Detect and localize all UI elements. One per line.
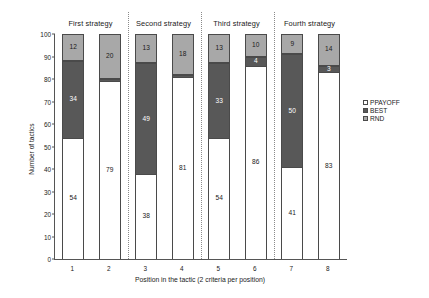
bar-segment-value: 33 xyxy=(216,98,223,105)
bar-segment-best: 49 xyxy=(135,63,157,173)
bar-segment-ppayoff: 54 xyxy=(208,138,230,260)
bar-segment-value: 54 xyxy=(70,195,77,202)
x-tick-4: 4 xyxy=(164,260,201,274)
bar-segment-rnd: 20 xyxy=(99,34,121,79)
bar-segment-ppayoff: 81 xyxy=(172,77,194,259)
x-tick-2: 2 xyxy=(91,260,128,274)
bar-segment-best: 4 xyxy=(245,57,267,66)
legend-label-best: BEST xyxy=(370,107,387,114)
legend-label-rnd: RND xyxy=(370,115,384,122)
stacked-bar[interactable]: 14383 xyxy=(318,34,340,259)
legend: PPAYOFF BEST RND xyxy=(363,99,400,122)
y-tick-60: 60 xyxy=(44,121,55,128)
bar-slot: 10486 xyxy=(238,34,275,259)
bar-segment-rnd: 13 xyxy=(135,34,157,63)
bars-layer: 1234542079134938188113335410486950411438… xyxy=(55,34,347,259)
stacked-bar[interactable]: 10486 xyxy=(245,34,267,259)
bar-segment-value: 83 xyxy=(325,163,332,170)
bar-segment-best: 3 xyxy=(318,66,340,73)
bar-segment-best: 50 xyxy=(281,54,303,167)
bar-slot: 2079 xyxy=(92,34,129,259)
bar-segment-best: 33 xyxy=(208,63,230,137)
bar-slot: 1881 xyxy=(165,34,202,259)
x-axis-ticks: 12345678 xyxy=(54,260,346,274)
bar-segment-ppayoff: 83 xyxy=(318,72,340,259)
bar-segment-value: 86 xyxy=(252,159,259,166)
bar-segment-value: 13 xyxy=(216,45,223,52)
bar-slot: 95041 xyxy=(274,34,311,259)
bar-segment-value: 79 xyxy=(106,167,113,174)
bar-slot: 133354 xyxy=(201,34,238,259)
y-tick-20: 20 xyxy=(44,211,55,218)
group-header-first: First strategy xyxy=(54,12,127,34)
x-tick-3: 3 xyxy=(127,260,164,274)
bar-segment-ppayoff: 79 xyxy=(99,81,121,259)
x-tick-5: 5 xyxy=(200,260,237,274)
bar-segment-rnd: 13 xyxy=(208,34,230,63)
x-axis-title: Position in the tactic (2 criteria per p… xyxy=(54,276,346,283)
bar-segment-value: 14 xyxy=(325,46,332,53)
bar-segment-value: 13 xyxy=(143,45,150,52)
bar-segment-value: 41 xyxy=(289,210,296,217)
legend-swatch-rnd xyxy=(363,116,368,121)
stacked-bar[interactable]: 1881 xyxy=(172,34,194,259)
stacked-bar-chart: First strategy Second strategy Third str… xyxy=(0,0,429,298)
bar-segment-value: 54 xyxy=(216,195,223,202)
y-tick-10: 10 xyxy=(44,233,55,240)
y-tick-70: 70 xyxy=(44,98,55,105)
bar-segment-value: 38 xyxy=(143,213,150,220)
stacked-bar[interactable]: 134938 xyxy=(135,34,157,259)
legend-swatch-ppayoff xyxy=(363,100,368,105)
y-tick-50: 50 xyxy=(44,143,55,150)
bar-segment-value: 49 xyxy=(143,116,150,123)
bar-segment-rnd: 12 xyxy=(62,34,84,61)
bar-segment-value: 9 xyxy=(290,41,294,48)
bar-segment-rnd: 10 xyxy=(245,34,267,57)
bar-segment-value: 20 xyxy=(106,53,113,60)
bar-segment-value: 81 xyxy=(179,165,186,172)
bar-segment-ppayoff: 38 xyxy=(135,174,157,260)
bar-slot: 14383 xyxy=(311,34,348,259)
legend-item-ppayoff: PPAYOFF xyxy=(363,99,400,106)
legend-item-best: BEST xyxy=(363,107,400,114)
bar-segment-value: 10 xyxy=(252,42,259,49)
y-tick-40: 40 xyxy=(44,166,55,173)
y-tick-30: 30 xyxy=(44,188,55,195)
bar-segment-value: 4 xyxy=(254,58,258,65)
legend-item-rnd: RND xyxy=(363,115,400,122)
stacked-bar[interactable]: 2079 xyxy=(99,34,121,259)
legend-swatch-best xyxy=(363,108,368,113)
x-tick-1: 1 xyxy=(54,260,91,274)
bar-slot: 134938 xyxy=(128,34,165,259)
bar-slot: 123454 xyxy=(55,34,92,259)
x-tick-7: 7 xyxy=(273,260,310,274)
y-tick-100: 100 xyxy=(40,31,55,38)
group-header-fourth: Fourth strategy xyxy=(273,12,346,34)
x-tick-6: 6 xyxy=(237,260,274,274)
stacked-bar[interactable]: 133354 xyxy=(208,34,230,259)
x-tick-8: 8 xyxy=(310,260,347,274)
group-header-second: Second strategy xyxy=(127,12,200,34)
bar-segment-best: 34 xyxy=(62,61,84,138)
bar-segment-rnd: 18 xyxy=(172,34,194,75)
bar-segment-value: 50 xyxy=(289,108,296,115)
bar-segment-value: 12 xyxy=(70,44,77,51)
group-header-strip: First strategy Second strategy Third str… xyxy=(54,12,346,34)
bar-segment-value: 34 xyxy=(70,96,77,103)
y-tick-80: 80 xyxy=(44,76,55,83)
legend-label-ppayoff: PPAYOFF xyxy=(370,99,400,106)
bar-segment-ppayoff: 86 xyxy=(245,66,267,260)
bar-segment-value: 18 xyxy=(179,51,186,58)
bar-segment-ppayoff: 41 xyxy=(281,167,303,259)
y-axis-title: Number of tactics xyxy=(28,123,35,174)
y-tick-90: 90 xyxy=(44,53,55,60)
bar-segment-rnd: 14 xyxy=(318,34,340,66)
group-header-third: Third strategy xyxy=(200,12,273,34)
bar-segment-rnd: 9 xyxy=(281,34,303,54)
stacked-bar[interactable]: 123454 xyxy=(62,34,84,259)
plot-area: 100 90 80 70 60 50 40 30 20 10 0 1 xyxy=(54,34,347,260)
bar-segment-ppayoff: 54 xyxy=(62,138,84,260)
stacked-bar[interactable]: 95041 xyxy=(281,34,303,259)
